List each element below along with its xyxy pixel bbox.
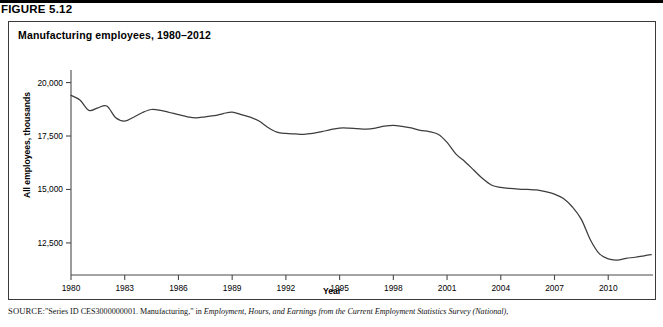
y-axis-title: All employees, thousands [22,85,32,205]
x-axis-title: Year [9,286,655,296]
y-tick-label: 15,000 [37,184,63,194]
y-tick-label: 17,500 [37,131,63,141]
source-text-tail: , [506,307,508,316]
y-tick-label: 12,500 [37,238,63,248]
source-label: SOURCE: [8,306,45,316]
line-chart-svg: 12,50015,00017,50020,0001980198319861989… [9,22,655,299]
source-text-italic: Employment, Hours, and Earnings from the… [204,307,506,316]
data-line-manufacturing-employees [71,95,651,260]
plot-area: 12,50015,00017,50020,0001980198319861989… [9,22,655,299]
top-rule-divider [0,0,663,3]
y-tick-label: 20,000 [37,78,63,88]
figure-number-label: FIGURE 5.12 [1,3,72,16]
chart-panel: Manufacturing employees, 1980–2012 12,50… [8,21,656,300]
source-note: SOURCE:"Series ID CES3000000001. Manufac… [8,306,660,317]
figure-root: FIGURE 5.12 Manufacturing employees, 198… [0,0,663,327]
source-text-lead: "Series ID CES3000000001. Manufacturing,… [45,307,204,316]
